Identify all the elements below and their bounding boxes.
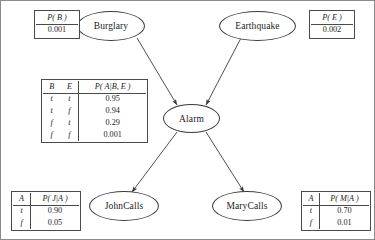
node-johncalls[interactable]: JohnCalls: [89, 191, 159, 221]
table-row: 0.001: [36, 24, 78, 36]
table-row: f t 0.29: [43, 117, 146, 129]
node-burglary-label: Burglary: [94, 21, 128, 31]
marycalls-cpt-cell-a: f: [303, 218, 319, 230]
marycalls-cpt-header-a: A: [303, 193, 319, 205]
alarm-cpt-cell-b: f: [43, 117, 61, 129]
node-johncalls-label: JohnCalls: [105, 201, 143, 211]
table-row: f f 0.001: [43, 129, 146, 141]
alarm-cpt-cell-b: f: [43, 129, 61, 141]
node-alarm[interactable]: Alarm: [163, 104, 220, 133]
alarm-cpt-cell-e: f: [61, 106, 79, 118]
alarm-cpt-cell-b: t: [43, 93, 61, 105]
johncalls-cpt-cell-p: 0.05: [31, 218, 79, 230]
node-marycalls[interactable]: MaryCalls: [212, 191, 282, 221]
johncalls-cpt-cell-p: 0.90: [31, 205, 79, 217]
alarm-cpt-header-b: B: [43, 81, 61, 93]
table-row: t 0.70: [303, 205, 369, 217]
alarm-cpt-header-e: E: [61, 81, 79, 93]
johncalls-cpt-cell-a: f: [13, 218, 31, 230]
earthquake-prior-value: 0.002: [311, 24, 353, 36]
johncalls-cpt-header-a: A: [13, 193, 31, 205]
marycalls-cpt-header-p: P( M|A ): [319, 193, 369, 205]
table-marycalls-cpt: A P( M|A ) t 0.70 f 0.01: [301, 191, 371, 231]
alarm-cpt-cell-e: t: [61, 117, 79, 129]
edge-alarm-marycalls: [206, 132, 244, 192]
bayesian-network-diagram: Burglary Earthquake Alarm JohnCalls Mary…: [0, 0, 375, 240]
table-row: t t 0.95: [43, 93, 146, 105]
burglary-prior-value: 0.001: [36, 24, 78, 36]
node-earthquake-label: Earthquake: [235, 21, 279, 31]
johncalls-cpt-header-p: P( J|A ): [31, 193, 79, 205]
earthquake-prior-header: P( E ): [311, 12, 353, 24]
edge-earthquake-alarm: [206, 38, 241, 105]
node-earthquake[interactable]: Earthquake: [219, 11, 296, 41]
table-earthquake-prior: P( E ) 0.002: [309, 10, 355, 39]
alarm-cpt-cell-e: f: [61, 129, 79, 141]
table-row: t 0.90: [13, 205, 79, 217]
alarm-cpt-cell-b: t: [43, 106, 61, 118]
node-burglary[interactable]: Burglary: [77, 11, 145, 41]
alarm-cpt-cell-p: 0.95: [79, 93, 146, 105]
table-row: 0.002: [311, 24, 353, 36]
table-row: f 0.01: [303, 218, 369, 230]
table-johncalls-cpt: A P( J|A ) t 0.90 f 0.05: [11, 191, 81, 231]
alarm-cpt-cell-p: 0.001: [79, 129, 146, 141]
table-burglary-prior: P( B ) 0.001: [34, 10, 80, 39]
alarm-cpt-cell-p: 0.94: [79, 106, 146, 118]
burglary-prior-header: P( B ): [36, 12, 78, 24]
alarm-cpt-cell-p: 0.29: [79, 117, 146, 129]
table-row: t f 0.94: [43, 106, 146, 118]
johncalls-cpt-cell-a: t: [13, 205, 31, 217]
node-marycalls-label: MaryCalls: [226, 201, 267, 211]
table-row: f 0.05: [13, 218, 79, 230]
marycalls-cpt-cell-p: 0.01: [319, 218, 369, 230]
marycalls-cpt-cell-a: t: [303, 205, 319, 217]
node-alarm-label: Alarm: [179, 114, 204, 124]
marycalls-cpt-cell-p: 0.70: [319, 205, 369, 217]
alarm-cpt-header-p: P( A|B, E ): [79, 81, 146, 93]
alarm-cpt-cell-e: t: [61, 93, 79, 105]
table-alarm-cpt: B E P( A|B, E ) t t 0.95 t f 0.94 f: [41, 79, 148, 143]
